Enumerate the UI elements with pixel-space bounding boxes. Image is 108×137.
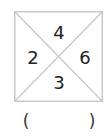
number-left: 2: [27, 49, 38, 67]
answer-close-paren: ): [89, 113, 96, 130]
number-top: 4: [53, 24, 64, 42]
number-bottom: 3: [53, 74, 64, 92]
answer-open-paren: (: [23, 113, 30, 130]
number-right: 6: [79, 49, 90, 67]
